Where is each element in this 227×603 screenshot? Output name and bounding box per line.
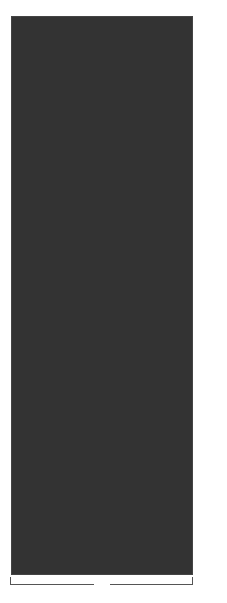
repeat-label xyxy=(0,579,203,591)
knitting-chart-grid xyxy=(11,16,193,575)
repeat-label-text xyxy=(94,579,110,591)
